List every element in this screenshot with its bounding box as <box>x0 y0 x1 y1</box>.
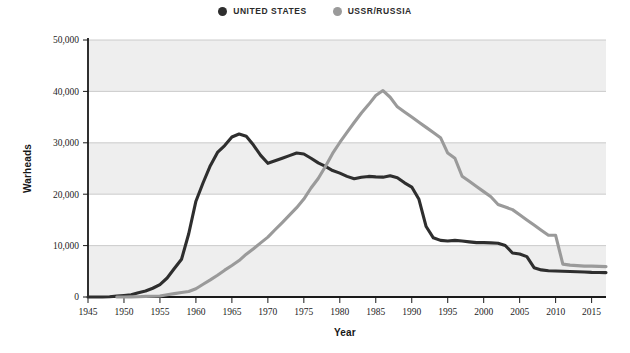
x-tick-label: 1950 <box>114 307 133 317</box>
y-tick-label: 0 <box>74 292 79 302</box>
line-chart: 010,00020,00030,00040,00050,000 19451950… <box>0 0 630 353</box>
x-axis-title: Year <box>334 327 356 338</box>
y-tick-label: 10,000 <box>53 241 79 251</box>
y-tick-label: 40,000 <box>53 87 79 97</box>
x-tick-label: 2010 <box>546 307 565 317</box>
x-tick-label: 1955 <box>150 307 169 317</box>
x-tick-label: 2015 <box>582 307 601 317</box>
x-tick-label: 1960 <box>186 307 205 317</box>
x-tick-label: 1965 <box>222 307 241 317</box>
x-tick-label: 1980 <box>330 307 349 317</box>
x-tick-label: 1990 <box>402 307 421 317</box>
y-axis-ticklabels: 010,00020,00030,00040,00050,000 <box>53 35 88 302</box>
y-tick-label: 20,000 <box>53 190 79 200</box>
x-tick-label: 2005 <box>510 307 529 317</box>
chart-page: UNITED STATES USSR/RUSSIA 010,00020,0003… <box>0 0 630 353</box>
x-tick-label: 2000 <box>474 307 493 317</box>
x-tick-label: 1970 <box>258 307 277 317</box>
plot-band <box>88 40 606 91</box>
x-tick-label: 1945 <box>79 307 98 317</box>
x-tick-label: 1995 <box>438 307 457 317</box>
y-tick-label: 50,000 <box>53 35 79 45</box>
x-tick-label: 1975 <box>294 307 313 317</box>
y-tick-label: 30,000 <box>53 138 79 148</box>
x-axis-ticklabels: 1945195019551960196519701975198019851990… <box>79 297 602 317</box>
y-axis-title: Warheads <box>22 144 33 193</box>
plot-band <box>88 143 606 194</box>
plot-band <box>88 246 606 297</box>
x-tick-label: 1985 <box>366 307 385 317</box>
